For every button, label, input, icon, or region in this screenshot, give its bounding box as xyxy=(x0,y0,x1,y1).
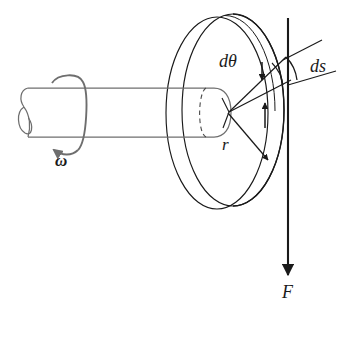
rotation-arrow-arc xyxy=(52,75,86,150)
label-dtheta: dθ xyxy=(219,52,237,70)
arc-segment xyxy=(272,40,336,85)
diagram-canvas xyxy=(0,0,350,339)
rotation-arrow xyxy=(52,75,86,154)
shaft-left-cap-outer xyxy=(21,88,30,137)
label-ds: ds xyxy=(310,57,326,75)
label-omega: ω xyxy=(55,152,67,169)
label-F: F xyxy=(282,283,293,301)
figure-root: dθ ds r F ω xyxy=(0,0,350,339)
label-r: r xyxy=(222,136,229,153)
